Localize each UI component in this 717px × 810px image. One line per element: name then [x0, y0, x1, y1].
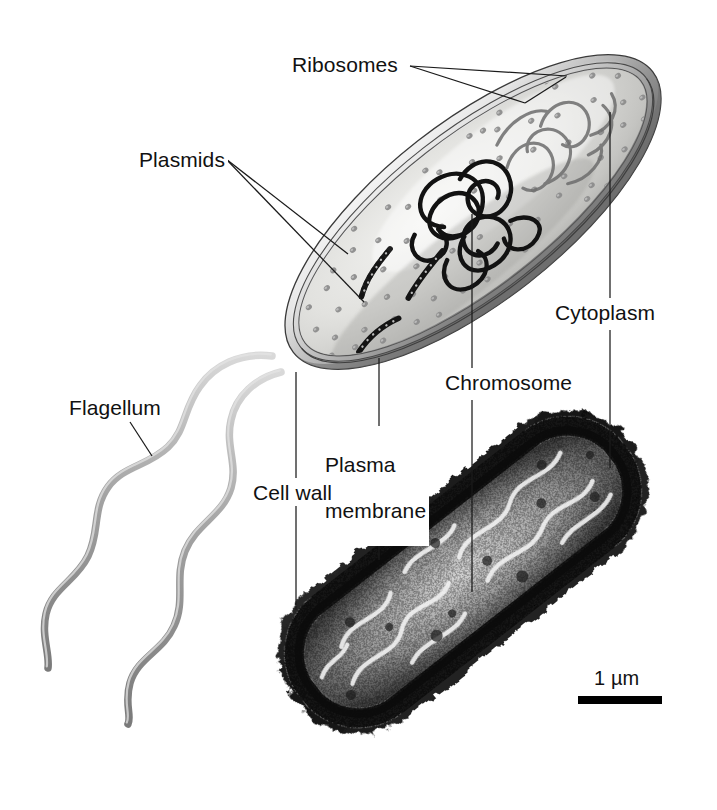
label-plasma-membrane-line2: membrane [325, 499, 426, 522]
label-chromosome: Chromosome [442, 370, 575, 395]
label-ribosomes: Ribosomes [289, 52, 401, 77]
figure-canvas: Ribosomes Plasmids Cytoplasm Chromosome … [0, 0, 717, 810]
label-cell-wall: Cell wall [250, 480, 335, 505]
flagellum-highlight-2 [126, 370, 279, 722]
leader-plasmids-1 [226, 159, 348, 254]
flagellum-path-2 [128, 372, 281, 724]
leader-flagellum [130, 422, 152, 456]
label-flagellum: Flagellum [66, 395, 164, 420]
label-plasmids: Plasmids [136, 147, 228, 172]
label-cytoplasm: Cytoplasm [552, 300, 658, 325]
scale-bar-label: 1 µm [591, 666, 642, 691]
scale-bar [578, 696, 662, 704]
label-plasma-membrane-line1: Plasma [325, 453, 426, 476]
label-plasma-membrane: Plasma membrane [322, 429, 429, 546]
electron-micrograph [247, 378, 680, 765]
